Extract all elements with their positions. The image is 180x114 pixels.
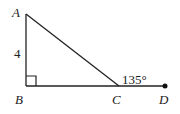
label-d: D (158, 92, 169, 107)
triangle-diagram: A B C D 4 135° (0, 0, 180, 114)
label-b: B (15, 92, 23, 107)
right-angle-marker (26, 76, 36, 86)
side-ab-length: 4 (14, 46, 21, 61)
segment-ac (26, 14, 119, 86)
point-d-dot (163, 84, 168, 89)
label-c: C (112, 92, 121, 107)
label-a: A (11, 5, 20, 20)
angle-c-label: 135° (122, 72, 147, 87)
